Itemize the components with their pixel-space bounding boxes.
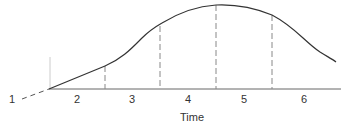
life-cycle-diagram: 1 2 3 4 5 6 Time xyxy=(0,0,356,130)
x-axis-title: Time xyxy=(180,111,204,123)
stage-label: 1 xyxy=(9,93,15,105)
lead-in-dashed-line xyxy=(22,89,49,99)
life-cycle-curve xyxy=(49,5,336,89)
stage-label: 5 xyxy=(241,93,247,105)
stage-label: 4 xyxy=(185,93,191,105)
stage-label: 3 xyxy=(129,93,135,105)
stage-label: 2 xyxy=(74,93,80,105)
stage-label: 6 xyxy=(301,93,307,105)
